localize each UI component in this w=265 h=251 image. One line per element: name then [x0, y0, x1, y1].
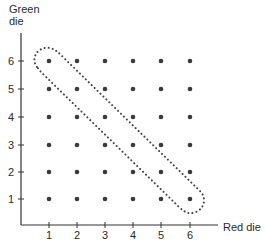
x-tick-label: 2 — [71, 229, 83, 241]
x-tick-label: 5 — [155, 229, 167, 241]
y-axis-label-line1: Green — [9, 3, 40, 15]
y-tick-label: 4 — [4, 111, 14, 123]
y-tick-label: 1 — [4, 193, 14, 205]
x-tick-label: 1 — [43, 229, 55, 241]
x-tick-label: 4 — [127, 229, 139, 241]
sample-space-diagram — [0, 0, 265, 251]
x-tick-label: 6 — [184, 229, 196, 241]
x-axis-label: Red die — [223, 221, 261, 233]
y-axis-label: Green die — [9, 3, 40, 27]
outcome-dots — [47, 59, 193, 202]
y-axis-label-line2: die — [9, 15, 40, 27]
y-tick-label: 2 — [4, 166, 14, 178]
y-tick-label: 6 — [4, 55, 14, 67]
y-tick-label: 3 — [4, 139, 14, 151]
x-tick-label: 3 — [99, 229, 111, 241]
y-tick-label: 5 — [4, 83, 14, 95]
sum-seven-highlight-outline — [34, 48, 204, 213]
